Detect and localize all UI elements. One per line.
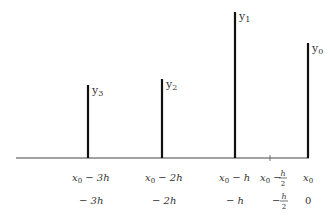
label-y0: y0: [311, 42, 323, 56]
xlabel-x0-minus-2h: x0 − 2h: [145, 172, 183, 185]
xlabel-x0: x0: [303, 172, 313, 185]
label-y1: y1: [238, 10, 250, 24]
xlabel-x0-minus-h: x0 − h: [219, 172, 250, 185]
xlabel-x0-minus-3h: x0 − 3h: [72, 172, 110, 185]
rel-minus-2h: − 2h: [152, 195, 176, 206]
rel-minus-h: − h: [226, 195, 244, 206]
frac1-den: 2: [281, 180, 285, 188]
frac2-num: h: [281, 192, 286, 201]
label-y3: y3: [91, 84, 103, 98]
label-y2: y2: [165, 78, 177, 92]
xlabel-x0-minus-half-h: x0 −: [260, 172, 282, 185]
frac1-num: h: [280, 169, 285, 178]
frac2-den: 2: [282, 203, 286, 211]
rel-minus-3h: − 3h: [79, 195, 103, 206]
stem-diagram: y3 y2 y1 y0 x0 − 3h x0 − 2h x0 − h x0 − …: [0, 0, 333, 222]
rel-zero: 0: [305, 195, 311, 206]
rel-minus-half-h: −: [272, 195, 280, 206]
